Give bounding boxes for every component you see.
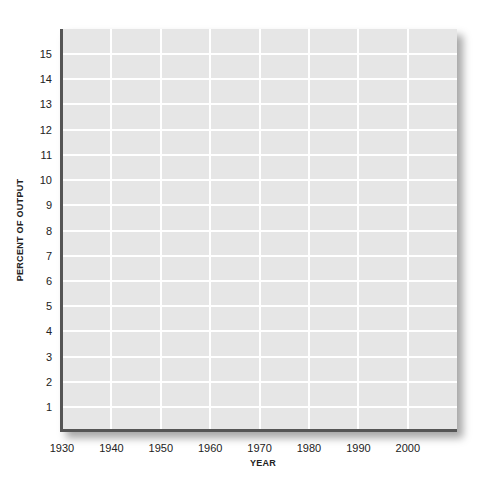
y-axis-label: PERCENT OF OUTPUT bbox=[15, 179, 25, 282]
v-gridline bbox=[259, 29, 261, 429]
y-tick-label: 14 bbox=[30, 73, 52, 85]
x-axis-label: YEAR bbox=[233, 458, 293, 468]
y-tick-label: 6 bbox=[30, 275, 52, 287]
x-tick-label: 1960 bbox=[190, 442, 230, 454]
x-tick-label: 1940 bbox=[91, 442, 131, 454]
v-gridline bbox=[209, 29, 211, 429]
x-tick-label: 1980 bbox=[289, 442, 329, 454]
v-gridline bbox=[160, 29, 162, 429]
y-tick-label: 8 bbox=[30, 225, 52, 237]
y-tick-label: 2 bbox=[30, 376, 52, 388]
y-tick-label: 7 bbox=[30, 250, 52, 262]
y-tick-label: 3 bbox=[30, 351, 52, 363]
y-tick-label: 5 bbox=[30, 300, 52, 312]
v-gridline bbox=[407, 29, 409, 429]
y-tick-label: 13 bbox=[30, 98, 52, 110]
y-tick-label: 4 bbox=[30, 325, 52, 337]
y-tick-label: 12 bbox=[30, 124, 52, 136]
y-tick-label: 15 bbox=[30, 48, 52, 60]
v-gridline bbox=[357, 29, 359, 429]
v-gridline bbox=[110, 29, 112, 429]
y-tick-label: 10 bbox=[30, 174, 52, 186]
y-tick-label: 1 bbox=[30, 401, 52, 413]
v-gridline bbox=[308, 29, 310, 429]
x-tick-label: 2000 bbox=[388, 442, 428, 454]
y-tick-label: 11 bbox=[30, 149, 52, 161]
y-tick-label: 9 bbox=[30, 199, 52, 211]
x-tick-label: 1990 bbox=[338, 442, 378, 454]
chart: 123456789101112131415 193019401950196019… bbox=[0, 0, 486, 493]
x-tick-label: 1930 bbox=[42, 442, 82, 454]
x-tick-label: 1970 bbox=[240, 442, 280, 454]
x-tick-label: 1950 bbox=[141, 442, 181, 454]
